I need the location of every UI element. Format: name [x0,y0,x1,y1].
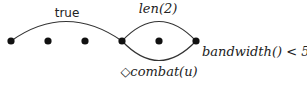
node-2 [44,37,51,44]
edge-true [11,22,122,42]
node-6 [192,37,199,44]
node-4 [118,37,125,44]
node-1 [7,37,14,44]
label-bandwidth: bandwidth() < 50 [202,44,307,59]
label-true: true [55,6,80,20]
node-3 [81,37,88,44]
label-combat: ◇combat(u) [120,64,197,79]
label-len: len(2) [139,1,178,16]
sequence-diagram: true len(2) ◇combat(u) bandwidth() < 50 [0,0,307,85]
node-5 [155,37,162,44]
